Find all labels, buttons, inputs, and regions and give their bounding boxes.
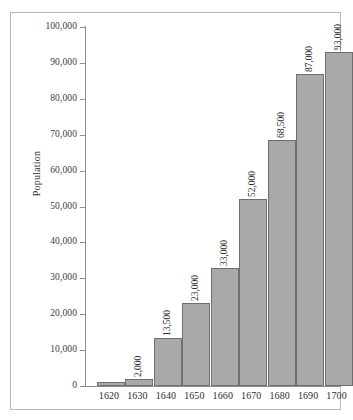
y-tick-label: 30,000: [14, 272, 77, 284]
y-tick-label: 50,000: [14, 201, 77, 213]
x-tick-label: 1660: [209, 390, 237, 401]
y-tick-label-text: 40,000: [14, 236, 77, 246]
y-tick-label-text: 30,000: [14, 272, 77, 282]
y-tick-label-text: 90,000: [14, 57, 77, 67]
y-tick-label-text: 60,000: [14, 165, 77, 175]
bar-value-label: 13,500: [162, 309, 172, 335]
x-tick-label: 1700: [323, 390, 351, 401]
y-tick-mark: [80, 386, 85, 387]
y-tick-label: 0: [14, 380, 77, 392]
plot-area: 2,00013,50023,00033,00052,00068,50087,00…: [86, 27, 342, 386]
y-tick-mark: [80, 171, 85, 172]
x-axis-line: [85, 386, 341, 387]
bar: 93,000: [325, 52, 353, 386]
x-tick-label: 1670: [237, 390, 265, 401]
x-tick-label: 1650: [180, 390, 208, 401]
bar-value-label: 68,500: [276, 112, 286, 138]
bar-value-label: 87,000: [304, 46, 314, 72]
bar-value-label: 23,000: [190, 275, 200, 301]
bar-value-label: 93,000: [333, 24, 343, 50]
bar-value-label: 52,000: [247, 171, 257, 197]
x-tick-label: 1680: [266, 390, 294, 401]
y-tick-label-text: 80,000: [14, 93, 77, 103]
y-tick-mark: [80, 207, 85, 208]
bar: [97, 382, 125, 386]
y-tick-mark: [80, 27, 85, 28]
y-tick-label: 70,000: [14, 129, 77, 141]
x-tick-label: 1630: [123, 390, 151, 401]
bar: 52,000: [239, 199, 267, 386]
y-tick-mark: [80, 314, 85, 315]
bar-value-label: 33,000: [219, 239, 229, 265]
bar: 68,500: [268, 140, 296, 386]
y-tick-label: 90,000: [14, 57, 77, 69]
bar: 87,000: [296, 74, 324, 386]
x-tick-label: 1640: [152, 390, 180, 401]
y-tick-label-text: 20,000: [14, 308, 77, 318]
y-tick-label-text: 70,000: [14, 129, 77, 139]
bar: 2,000: [125, 379, 153, 386]
y-tick-mark: [80, 350, 85, 351]
y-tick-mark: [80, 135, 85, 136]
y-tick-mark: [80, 63, 85, 64]
y-tick-mark: [80, 242, 85, 243]
y-tick-label-text: 50,000: [14, 201, 77, 211]
y-tick-mark: [80, 99, 85, 100]
bar: 33,000: [211, 268, 239, 386]
y-tick-label-text: 0: [14, 380, 77, 390]
x-tick-label: 1620: [95, 390, 123, 401]
y-tick-label-text: 100,000: [14, 21, 77, 31]
bar: 23,000: [182, 303, 210, 386]
y-tick-label: 60,000: [14, 165, 77, 177]
y-tick-label-text: 10,000: [14, 344, 77, 354]
bar: 13,500: [154, 338, 182, 386]
bar-value-label: 2,000: [133, 355, 143, 376]
y-tick-label: 80,000: [14, 93, 77, 105]
y-tick-mark: [80, 278, 85, 279]
y-tick-label: 20,000: [14, 308, 77, 320]
x-tick-label: 1690: [294, 390, 322, 401]
y-tick-label: 10,000: [14, 344, 77, 356]
y-tick-label: 100,000: [14, 21, 77, 33]
y-tick-label: 40,000: [14, 236, 77, 248]
